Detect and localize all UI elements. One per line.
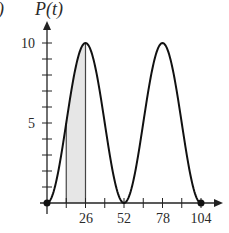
x-axis-arrow-icon	[214, 199, 223, 207]
x-tick-label-104: 104	[191, 211, 212, 226]
y-axis-title: P(t)	[34, 0, 63, 20]
endpoint-dot	[44, 200, 51, 207]
y-tick-label-5: 5	[28, 116, 35, 131]
panel-label-fragment: )	[0, 0, 4, 20]
x-tick-label-52: 52	[117, 211, 131, 226]
y-tick-label-10: 10	[21, 36, 35, 51]
y-axis-arrow-icon	[43, 21, 51, 30]
endpoint-dot	[198, 200, 205, 207]
x-tick-label-78: 78	[156, 211, 170, 226]
x-tick-label-26: 26	[79, 211, 93, 226]
chart: ) P(t) 10 5 26 52 78 104	[0, 0, 229, 233]
